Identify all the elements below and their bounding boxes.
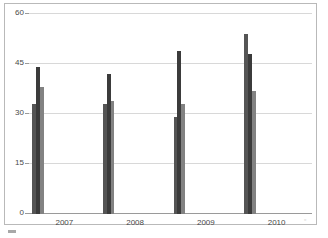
bars-layer: 2007200820092010 xyxy=(29,14,312,214)
bar xyxy=(252,91,256,214)
chart-screenshot: 015304560 2007200820092010 ▫ xyxy=(0,0,328,238)
bar-group: 2008 xyxy=(100,14,171,214)
scan-artifact-corner: ▫ xyxy=(304,216,311,223)
y-axis-tick-label: 30 xyxy=(15,109,24,117)
x-axis-tick-label: 2008 xyxy=(100,219,171,227)
y-axis-tick-label: 60 xyxy=(15,9,24,17)
scan-artifact xyxy=(8,230,16,233)
y-axis-tick-label: 45 xyxy=(15,59,24,67)
x-axis-tick-label: 2007 xyxy=(29,219,100,227)
x-axis-tick-label: 2009 xyxy=(171,219,242,227)
bar-group: 2007 xyxy=(29,14,100,214)
y-axis-tick-label: 15 xyxy=(15,159,24,167)
plot-area: 015304560 2007200820092010 xyxy=(29,14,312,214)
bar xyxy=(111,101,115,214)
bar-group: 2009 xyxy=(171,14,242,214)
bar xyxy=(40,87,44,214)
x-axis-tick-label: 2010 xyxy=(241,219,312,227)
y-axis-tick-label: 0 xyxy=(20,209,24,217)
bar xyxy=(181,104,185,214)
bar-group: 2010 xyxy=(241,14,312,214)
chart-frame: 015304560 2007200820092010 xyxy=(4,3,317,225)
